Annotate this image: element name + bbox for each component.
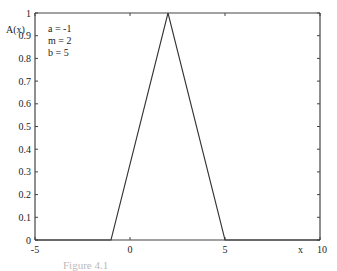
y-tick-label: 0.4: [19, 144, 32, 155]
y-tick-label: 0.6: [19, 98, 32, 109]
y-axis-label: A(x): [6, 24, 25, 36]
x-tick-label: 0: [128, 244, 133, 255]
y-tick-label: 0.8: [19, 53, 32, 64]
annotation-b: b = 5: [48, 47, 69, 58]
y-tick-label: 0.5: [19, 121, 32, 132]
y-tick-label: 1: [26, 8, 31, 19]
x-tick-label: 10: [317, 244, 327, 255]
y-tick-label: 0.2: [19, 189, 32, 200]
series-line-triangular: [35, 13, 320, 240]
figure-caption: Figure 4.1: [63, 259, 108, 271]
axes: [35, 13, 320, 240]
x-tick-label: -5: [31, 244, 39, 255]
annotation-m: m = 2: [48, 35, 71, 46]
y-tick-label: 0.3: [19, 166, 32, 177]
y-tick-label: 0.1: [19, 212, 32, 223]
x-tick-label: 5: [223, 244, 228, 255]
series: [35, 13, 320, 240]
annotation-a: a = -1: [48, 23, 71, 34]
y-tick-label: 0.7: [19, 76, 32, 87]
x-axis-label: x: [298, 244, 303, 255]
